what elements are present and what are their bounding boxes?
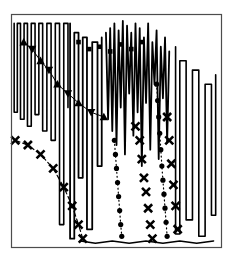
marker-circle — [116, 194, 121, 199]
marker-circle — [162, 206, 167, 211]
marker-square — [87, 47, 92, 52]
marker-square — [76, 40, 81, 45]
marker-circle — [156, 114, 161, 119]
marker-circle — [117, 208, 122, 213]
marker-square — [97, 44, 102, 49]
chart-image — [0, 0, 235, 263]
marker-circle — [161, 192, 166, 197]
marker-circle — [158, 147, 163, 152]
marker-square — [140, 40, 145, 45]
figure-container — [0, 0, 235, 263]
marker-circle — [114, 166, 119, 171]
marker-circle — [154, 82, 159, 87]
marker-circle — [119, 234, 124, 239]
marker-circle — [118, 222, 123, 227]
marker-circle — [159, 164, 164, 169]
marker-circle — [113, 152, 118, 157]
marker-square — [129, 47, 134, 52]
marker-circle — [160, 178, 165, 183]
marker-circle — [165, 234, 170, 239]
marker-circle — [157, 131, 162, 136]
marker-square — [108, 49, 113, 54]
marker-square — [118, 42, 123, 47]
marker-circle — [112, 138, 117, 143]
marker-circle — [163, 220, 168, 225]
plot-canvas — [0, 0, 235, 263]
marker-circle — [155, 98, 160, 103]
marker-circle — [115, 180, 120, 185]
